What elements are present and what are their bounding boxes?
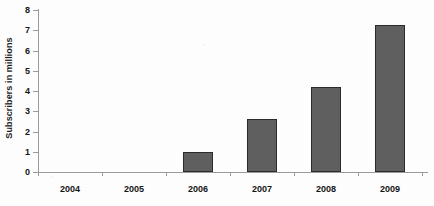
y-tick-label: 1 — [0, 147, 30, 157]
bar-2006 — [183, 152, 213, 172]
bar-2009 — [375, 25, 405, 172]
bar-2007 — [247, 119, 277, 172]
x-tick-mark — [358, 172, 359, 176]
bar-chart: Subscribers in millions 012345678 200420… — [0, 0, 434, 206]
x-axis-line — [38, 172, 428, 173]
y-tick-label: 4 — [0, 86, 30, 96]
x-tick-label: 2006 — [166, 184, 230, 194]
x-tick-mark — [294, 172, 295, 176]
y-tick-label: 2 — [0, 127, 30, 137]
x-tick-label: 2005 — [102, 184, 166, 194]
y-tick-label: 6 — [0, 46, 30, 56]
bar-series — [38, 10, 428, 172]
x-tick-label: 2007 — [230, 184, 294, 194]
x-tick-mark — [230, 172, 231, 176]
y-tick-label: 7 — [0, 25, 30, 35]
x-tick-label: 2008 — [294, 184, 358, 194]
x-tick-label: 2009 — [358, 184, 422, 194]
y-tick-label: 5 — [0, 66, 30, 76]
x-tick-mark — [166, 172, 167, 176]
y-tick-label: 8 — [0, 5, 30, 15]
bar-2008 — [311, 87, 341, 172]
x-tick-mark — [102, 172, 103, 176]
x-tick-mark — [38, 172, 39, 176]
y-tick-label: 0 — [0, 167, 30, 177]
x-tick-mark — [422, 172, 423, 176]
y-tick-label: 3 — [0, 106, 30, 116]
x-tick-label: 2004 — [38, 184, 102, 194]
